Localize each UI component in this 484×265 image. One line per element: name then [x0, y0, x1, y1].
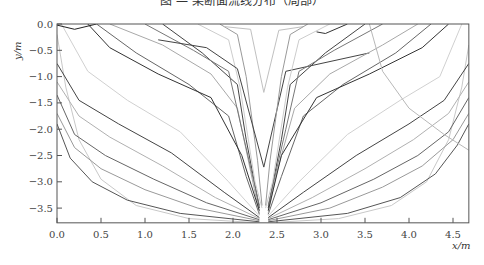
curve-right-8 [268, 24, 431, 214]
x-tick-label: 3.5 [357, 229, 373, 240]
y-tick-label: −3.0 [29, 176, 53, 187]
curve-left-2 [57, 124, 259, 222]
line-chart: 0.00.51.01.52.02.53.03.54.04.5 0.0−0.5−1… [0, 0, 484, 265]
curve-right-7 [268, 24, 462, 216]
curve-left-5 [57, 82, 259, 219]
curve-right-14 [266, 24, 308, 206]
y-axis-label: y/m [12, 41, 23, 61]
y-tick-label: −3.5 [29, 203, 53, 214]
x-tick-label: 1.0 [137, 229, 153, 240]
curve-right-6 [268, 64, 469, 218]
curve-center-v [158, 40, 369, 167]
x-tick-label: 2.5 [269, 229, 285, 240]
x-tick-label: 4.5 [445, 229, 461, 240]
y-tick-label: −2.5 [29, 150, 53, 161]
curve-right-5 [268, 82, 469, 219]
x-tick-label: 0.5 [93, 229, 109, 240]
curve-group [57, 24, 469, 223]
x-axis-label: x/m [452, 240, 471, 251]
y-tick-label: −2.0 [29, 124, 53, 135]
x-tick-label: 3.0 [313, 229, 329, 240]
x-tick-label: 4.0 [401, 229, 417, 240]
curve-right-2 [268, 124, 469, 222]
x-tick-label: 2.0 [225, 229, 241, 240]
y-tick-label: −1.0 [29, 71, 53, 82]
y-tick-label: −1.5 [29, 97, 53, 108]
curve-center-v2 [224, 27, 303, 93]
curve-left-9 [110, 24, 260, 213]
x-tick-label: 0.0 [49, 229, 65, 240]
curve-right-9 [268, 24, 418, 213]
curve-left-8 [97, 24, 260, 214]
y-tick-label: −0.5 [29, 45, 53, 56]
y-tick-label: 0.0 [37, 19, 53, 30]
x-tick-label: 1.5 [181, 229, 197, 240]
